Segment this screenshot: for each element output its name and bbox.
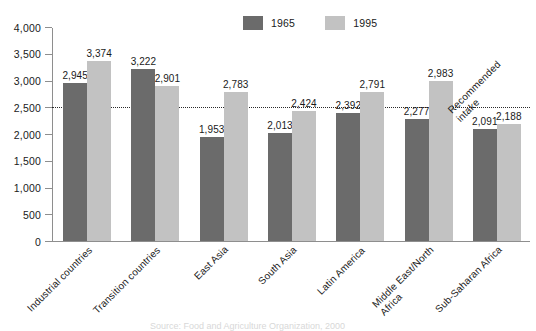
y-axis-tick-label: 1,000 [14, 182, 41, 194]
y-axis-tick-label: 3,500 [14, 48, 41, 60]
x-axis-label: Industrial countries [25, 244, 94, 313]
bar-value-label: 3,222 [131, 56, 157, 67]
bar-value-label: 2,392 [336, 100, 362, 111]
bar-1965: 2,091 [473, 129, 497, 241]
bar-1965: 3,222 [131, 69, 155, 241]
bar-1995: 2,901 [155, 86, 179, 241]
bar-value-label: 2,091 [472, 116, 498, 127]
legend-label-1965: 1965 [271, 18, 295, 29]
bar-value-label: 1,953 [199, 124, 225, 135]
bar-1995: 2,791 [360, 92, 384, 241]
x-axis-label-line: Industrial countries [25, 244, 94, 313]
bar-value-label: 2,901 [155, 73, 181, 84]
bar-value-label: 3,374 [86, 48, 112, 59]
y-axis-tick: 1,500 [45, 161, 52, 162]
y-axis-tick: 500 [45, 214, 52, 215]
y-axis-tick-label: 1,500 [14, 155, 41, 167]
bar-group: 1,9532,783 [200, 28, 248, 241]
plot-area: 05001,0001,5002,0002,5003,0003,5004,000 … [52, 28, 530, 242]
bar-1995: 2,424 [292, 111, 316, 241]
x-axis-label-line: East Asia [192, 244, 230, 282]
bar-value-label: 2,783 [223, 79, 249, 90]
bar-groups: 2,9453,3743,2222,9011,9532,7832,0132,424… [53, 28, 530, 241]
x-axis-label: East Asia [192, 244, 230, 282]
bar-1995: 2,188 [497, 124, 521, 241]
x-axis-label-line: South Asia [256, 244, 299, 287]
y-axis-tick-label: 0 [35, 236, 41, 248]
bar-1965: 2,945 [63, 83, 87, 241]
bar-1965: 2,013 [268, 133, 292, 241]
x-axis-category-labels: Industrial countriesTransition countries… [52, 244, 530, 324]
bar-group: 2,2772,983 [405, 28, 453, 241]
bar-1965: 1,953 [200, 137, 224, 241]
bar-1995: 2,783 [224, 92, 248, 241]
bar-value-label: 2,277 [404, 106, 430, 117]
bar-value-label: 2,013 [267, 120, 293, 131]
y-axis-tick: 0 [45, 241, 52, 242]
bar-1995: 3,374 [87, 61, 111, 242]
bar-value-label: 2,983 [428, 68, 454, 79]
y-axis-tick: 2,500 [45, 107, 52, 108]
bar-value-label: 2,791 [360, 79, 386, 90]
y-axis-tick-label: 500 [23, 209, 41, 221]
bar-1965: 2,277 [405, 119, 429, 241]
x-axis-label: South Asia [256, 244, 299, 287]
bar-group: 2,9453,374 [63, 28, 111, 241]
bar-1965: 2,392 [336, 113, 360, 241]
y-axis-tick-label: 2,000 [14, 129, 41, 141]
x-axis-label-line: Sub-Saharan Africa [433, 244, 504, 315]
bar-value-label: 2,424 [291, 98, 317, 109]
y-axis-tick: 4,000 [45, 27, 52, 28]
bar-group: 2,0132,424 [268, 28, 316, 241]
bar-group: 3,2222,901 [131, 28, 179, 241]
x-axis-label: Sub-Saharan Africa [433, 244, 504, 315]
bar-value-label: 2,945 [62, 70, 88, 81]
y-axis-tick-label: 3,000 [14, 75, 41, 87]
y-axis-tick-label: 2,500 [14, 102, 41, 114]
x-axis-label-line: Transition countries [91, 244, 162, 315]
y-axis-tick-label: 4,000 [14, 22, 41, 34]
x-axis-line [52, 241, 530, 242]
bar-group: 2,3922,791 [336, 28, 384, 241]
x-axis-label-line: Latin America [315, 244, 367, 296]
x-axis-label: Latin America [315, 244, 367, 296]
legend-label-1995: 1995 [353, 18, 377, 29]
source-caption: Source: Food and Agriculture Organizatio… [150, 321, 450, 331]
bar-value-label: 2,188 [496, 111, 522, 122]
y-axis-tick: 3,500 [45, 54, 52, 55]
y-axis-tick: 2,000 [45, 134, 52, 135]
y-axis-tick: 1,000 [45, 188, 52, 189]
y-axis-tick: 3,000 [45, 81, 52, 82]
x-axis-label: Transition countries [91, 244, 162, 315]
